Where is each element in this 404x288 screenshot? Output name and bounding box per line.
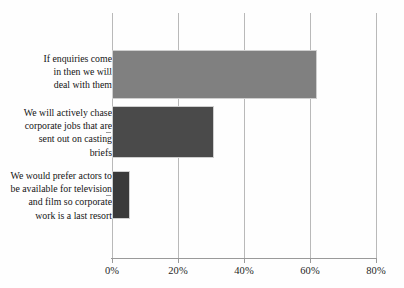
category-label-1-line-3: deal with them [8,78,112,91]
category-label-3-line-2: be available for television [8,182,112,195]
gridline-80 [376,13,377,258]
bar-3 [112,171,130,219]
x-tick-label-3: 60% [300,265,320,276]
plot-area: 0%20%40%60%80% [112,13,376,258]
category-label-3: We would prefer actors to be available f… [8,169,112,222]
x-tick-mark-3 [310,258,311,263]
x-tick-label-4: 80% [366,265,386,276]
category-label-2-line-2: corporate jobs that are [8,119,112,132]
x-tick-mark-1 [178,258,179,263]
category-label-3-line-1: We would prefer actors to [8,169,112,182]
category-label-2-line-1: We will actively chase [8,106,112,119]
category-tick-1 [106,74,111,75]
category-label-1: If enquiries come in then we will deal w… [8,52,112,92]
x-tick-label-0: 0% [105,265,119,276]
x-tick-label-1: 20% [168,265,188,276]
x-tick-mark-2 [244,258,245,263]
category-label-3-line-3: and film so corporate [8,195,112,208]
bar-1 [112,50,317,99]
bar-2 [112,106,214,158]
x-tick-label-2: 40% [234,265,254,276]
category-label-2: We will actively chase corporate jobs th… [8,106,112,159]
chart-canvas: If enquiries come in then we will deal w… [0,0,404,288]
category-label-1-line-2: in then we will [8,65,112,78]
category-label-2-line-4: briefs [8,146,112,159]
category-label-3-line-4: work is a last resort [8,209,112,222]
category-tick-3 [106,195,111,196]
category-axis-labels: If enquiries come in then we will deal w… [0,0,112,288]
x-tick-mark-4 [376,258,377,263]
category-label-2-line-3: sent out on casting [8,132,112,145]
category-tick-2 [106,132,111,133]
x-tick-mark-0 [112,258,113,263]
category-label-1-line-1: If enquiries come [8,52,112,65]
